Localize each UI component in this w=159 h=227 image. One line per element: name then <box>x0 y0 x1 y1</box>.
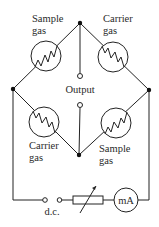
label-top-left-line2: gas <box>32 25 46 36</box>
label-bottom-right-line1: Sample <box>99 143 131 154</box>
label-top-right-line2: gas <box>103 25 117 36</box>
milliammeter: mA <box>114 188 138 212</box>
node-bottom <box>77 153 81 157</box>
label-top-left-line1: Sample <box>32 13 64 24</box>
dc-terminal-left <box>43 198 48 203</box>
output-label: Output <box>65 84 94 95</box>
output-terminal-top <box>78 74 83 79</box>
label-bottom-left-line2: gas <box>29 152 43 163</box>
dc-terminal-right <box>57 198 62 203</box>
filament-cell-top-right <box>98 42 128 72</box>
meter-label: mA <box>118 195 134 206</box>
label-bottom-left-line1: Carrier <box>29 140 59 151</box>
filament-cell-bottom-right <box>101 108 131 138</box>
label-top-right-line1: Carrier <box>103 13 133 24</box>
dc-label: d.c. <box>44 206 59 217</box>
node-left <box>11 87 15 91</box>
node-top <box>78 21 82 25</box>
label-bottom-right-line2: gas <box>99 155 113 166</box>
variable-resistor <box>73 186 103 213</box>
filament-cell-top-left <box>31 41 61 71</box>
filament-cell-bottom-left <box>29 107 59 137</box>
node-right <box>147 88 151 92</box>
output-terminal-bottom <box>78 103 83 108</box>
bridge-circuit-diagram: mA Sample gas Carrier gas Output Carrier… <box>0 0 159 227</box>
